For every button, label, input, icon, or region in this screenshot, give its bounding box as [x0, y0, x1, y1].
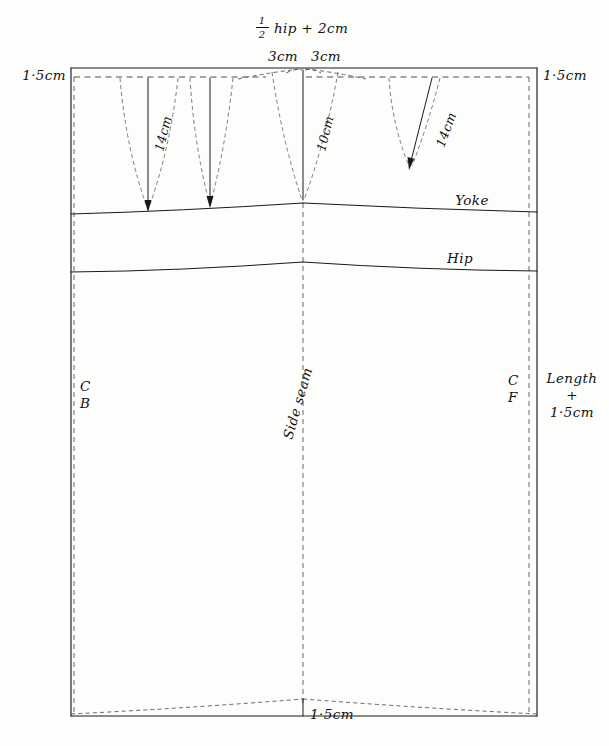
waist-bump-front — [305, 69, 321, 73]
centre-front-label-c: C — [508, 372, 519, 388]
front-dart-2-label: 14cm — [433, 110, 459, 149]
length-label-word: Length — [546, 370, 598, 386]
half-hip-numerator: 1 — [259, 15, 265, 26]
top-left-seam-allowance-label: 1·5cm — [22, 67, 66, 83]
back-dart-2-right-guide — [210, 78, 233, 206]
centre-front-label-f: F — [507, 389, 518, 405]
length-label-allowance: 1·5cm — [550, 404, 594, 420]
hip-label: Hip — [446, 250, 473, 266]
front-dart-2-left-guide — [389, 78, 409, 166]
pattern-diagram: 1 2 hip + 2cm 3cm 3cm 1·5cm 1·5cm 14cm 1… — [0, 0, 609, 746]
front-dart-2 — [389, 78, 440, 170]
front-dart-2-arrowhead — [408, 157, 415, 170]
centre-back-label-b: B — [79, 395, 90, 411]
front-dart-1-left-guide — [272, 72, 302, 200]
waist-scallop-curves — [238, 69, 366, 79]
back-dart-2 — [190, 78, 233, 208]
hip-line-back — [71, 262, 303, 272]
front-dart-1-label: 10cm — [313, 114, 336, 153]
back-dart-1-label: 14cm — [151, 114, 174, 153]
side-seam-label: Side seam — [280, 365, 316, 440]
front-dart-2-right-guide — [412, 78, 440, 166]
top-right-seam-allowance-label: 1·5cm — [543, 67, 587, 83]
back-dart-1-arrowhead — [145, 200, 152, 212]
half-hip-denominator: 2 — [258, 29, 265, 40]
length-label-plus: + — [566, 387, 578, 403]
yoke-label: Yoke — [455, 192, 489, 208]
half-hip-text: hip + 2cm — [274, 20, 348, 36]
back-dart-1-left-guide — [120, 78, 148, 210]
hem-curve-back — [71, 699, 303, 714]
back-dart-2-left-guide — [190, 78, 210, 206]
yoke-line-back — [71, 203, 303, 214]
hem-dashed-curve — [71, 699, 537, 716]
waist-left-3cm-label: 3cm — [268, 48, 298, 64]
pattern-canvas: 1 2 hip + 2cm 3cm 3cm 1·5cm 1·5cm 14cm 1… — [0, 0, 609, 746]
waist-right-3cm-label: 3cm — [311, 48, 341, 64]
hip-line-front — [303, 262, 537, 271]
front-dart-2-centre-line — [411, 78, 432, 161]
half-hip-measurement-label: 1 2 hip + 2cm — [256, 15, 348, 40]
back-dart-1 — [120, 78, 178, 212]
back-dart-2-arrowhead — [207, 196, 214, 208]
waist-curve-back-inner — [238, 69, 300, 79]
hem-allowance-label: 1·5cm — [310, 706, 354, 722]
centre-back-label-c: C — [80, 378, 91, 394]
yoke-line-front — [303, 203, 537, 212]
